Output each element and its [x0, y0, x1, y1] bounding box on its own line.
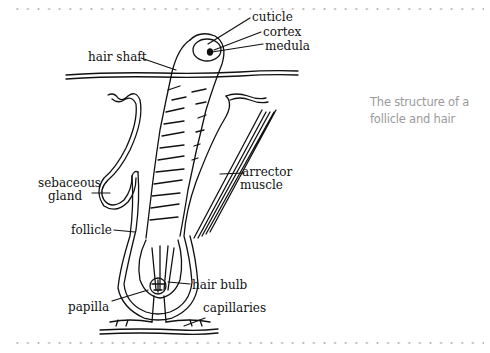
- caption-line-1: The structure of a: [370, 94, 480, 111]
- label-medula: medula: [265, 39, 310, 53]
- label-arrector-line2: muscle: [240, 178, 283, 192]
- label-hair-shaft: hair shaft: [88, 50, 147, 64]
- hair-shaft-drawing: [146, 34, 224, 238]
- sebaceous-gland-drawing: [99, 94, 141, 209]
- skin-surface: [66, 71, 298, 79]
- label-arrector-line1: arrector: [242, 165, 292, 179]
- label-papilla: papilla: [68, 300, 109, 314]
- label-follicle: follicle: [71, 223, 112, 237]
- label-sebaceous-line2: gland: [48, 189, 82, 203]
- label-cortex: cortex: [263, 25, 302, 39]
- capillaries-drawing: [100, 320, 218, 334]
- caption-line-2: follicle and hair: [370, 111, 480, 128]
- label-capillaries: capillaries: [203, 301, 266, 315]
- label-sebaceous-line1: sebaceous: [38, 176, 101, 190]
- hair-follicle-diagram: cuticle cortex medula hair shaft sebaceo…: [0, 0, 490, 353]
- figure-caption: The structure of a follicle and hair: [370, 94, 480, 128]
- label-cuticle: cuticle: [252, 10, 293, 24]
- label-hair-bulb: hair bulb: [192, 278, 248, 292]
